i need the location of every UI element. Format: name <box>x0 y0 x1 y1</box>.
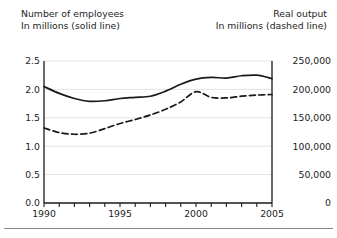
left-tick-label: 1.5 <box>25 112 40 123</box>
right-tick-label: 200,000 <box>293 84 332 95</box>
plot-area: 0.00.51.01.52.02.5 050,000100,000150,000… <box>0 0 337 238</box>
x-tick-label: 2005 <box>260 208 284 219</box>
right-tick-label: 250,000 <box>293 55 332 66</box>
right-tick-label: 0 <box>325 197 331 208</box>
x-tick-label: 1995 <box>108 208 132 219</box>
left-tick-label: 2.0 <box>25 84 40 95</box>
left-tick-label: 0.0 <box>25 197 40 208</box>
right-tick-label: 50,000 <box>298 169 331 180</box>
series-line-real-output <box>44 92 272 135</box>
gridlines <box>44 61 272 175</box>
bottom-divider <box>4 228 333 229</box>
x-axis-tick-labels: 1990199520002005 <box>32 208 284 219</box>
right-tick-label: 100,000 <box>293 141 332 152</box>
right-tick-label: 150,000 <box>293 112 332 123</box>
left-tick-label: 1.0 <box>25 141 40 152</box>
x-tick-label: 2000 <box>184 208 208 219</box>
left-tick-label: 2.5 <box>25 55 40 66</box>
series-line-employees <box>44 75 272 101</box>
x-tick-label: 1990 <box>32 208 56 219</box>
right-axis-tick-labels: 050,000100,000150,000200,000250,000 <box>293 55 332 208</box>
left-tick-label: 0.5 <box>25 169 40 180</box>
left-axis-tick-labels: 0.00.51.01.52.02.5 <box>25 55 40 208</box>
chart-figure: Number of employees In millions (solid l… <box>0 0 337 238</box>
